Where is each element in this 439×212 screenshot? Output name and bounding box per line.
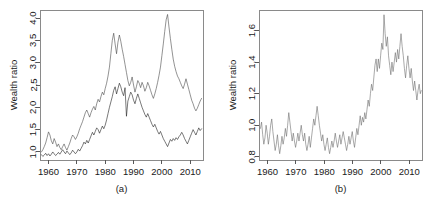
y-tick-label: 3.0 — [28, 56, 39, 69]
figure-container: 1.01.52.02.53.03.54.01960197019801990200… — [0, 0, 439, 212]
x-tick-label: 1980 — [314, 166, 335, 177]
x-tick-label: 2000 — [370, 166, 391, 177]
y-tick-label: 2.0 — [28, 101, 39, 114]
panel-caption: (b) — [335, 183, 347, 194]
x-tick-label: 1970 — [285, 166, 306, 177]
y-axis-title: Wealth ratio — [8, 60, 19, 111]
plot-frame — [259, 10, 422, 160]
y-tick-label: 1.6 — [247, 24, 258, 37]
x-tick-label: 2010 — [180, 166, 201, 177]
panel-a-plot: 1.01.52.02.53.03.54.01960197019801990200… — [0, 0, 220, 212]
series-line-1 — [41, 14, 201, 152]
x-tick-label: 1970 — [66, 166, 87, 177]
y-tick-label: 2.5 — [28, 78, 39, 91]
y-tick-label: 0.8 — [247, 150, 258, 163]
panel-b: 0.81.01.21.41.6196019701980199020002010W… — [219, 0, 439, 212]
panel-a: 1.01.52.02.53.03.54.01960197019801990200… — [0, 0, 220, 212]
x-tick-label: 1990 — [342, 166, 363, 177]
y-tick-label: 4.0 — [28, 11, 39, 24]
panel-b-plot: 0.81.01.21.41.6196019701980199020002010W… — [219, 0, 439, 212]
y-tick-label: 3.5 — [28, 34, 39, 47]
x-tick-label: 1960 — [38, 166, 59, 177]
panel-caption: (a) — [116, 183, 128, 194]
y-tick-label: 1.2 — [247, 87, 258, 100]
y-tick-label: 1.0 — [247, 119, 258, 132]
x-tick-label: 2010 — [399, 166, 420, 177]
x-tick-label: 1960 — [257, 166, 278, 177]
y-tick-label: 1.4 — [247, 55, 258, 68]
y-tick-label: 1.0 — [28, 145, 39, 158]
series-line-1 — [260, 15, 421, 154]
y-axis-title: Wealth ratio — [227, 60, 238, 111]
x-tick-label: 2000 — [151, 166, 172, 177]
series-line-2 — [41, 83, 201, 156]
x-tick-label: 1980 — [95, 166, 116, 177]
y-tick-label: 1.5 — [28, 123, 39, 136]
x-tick-label: 1990 — [123, 166, 144, 177]
